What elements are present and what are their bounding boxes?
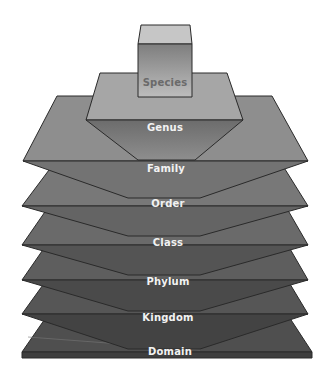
label-order: Order: [151, 198, 184, 209]
taxonomy-diagram: Species Genus Family Order Class Phylum …: [0, 0, 332, 381]
label-class: Class: [153, 237, 183, 248]
taxonomy-stack-graphic: [0, 0, 332, 381]
label-phylum: Phylum: [146, 276, 189, 287]
label-kingdom: Kingdom: [142, 312, 193, 323]
label-family: Family: [147, 163, 185, 174]
label-genus: Genus: [147, 122, 183, 133]
label-species: Species: [143, 77, 188, 88]
label-domain: Domain: [148, 346, 192, 357]
